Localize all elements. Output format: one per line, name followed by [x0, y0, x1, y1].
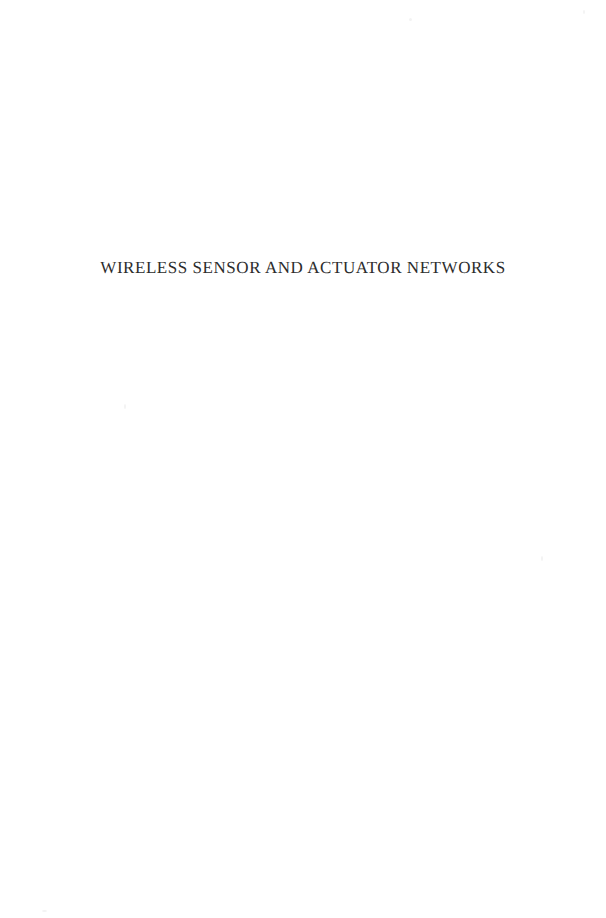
- half-title-block: WIRELESS SENSOR AND ACTUATOR NETWORKS: [0, 258, 606, 278]
- half-title-page: WIRELESS SENSOR AND ACTUATOR NETWORKS: [0, 0, 606, 918]
- page-title: WIRELESS SENSOR AND ACTUATOR NETWORKS: [100, 258, 505, 278]
- scan-speck: [409, 18, 412, 21]
- scan-speck: [42, 910, 47, 912]
- scan-speck: [541, 556, 543, 561]
- scan-speck: [124, 404, 126, 409]
- scan-speck: [583, 10, 585, 14]
